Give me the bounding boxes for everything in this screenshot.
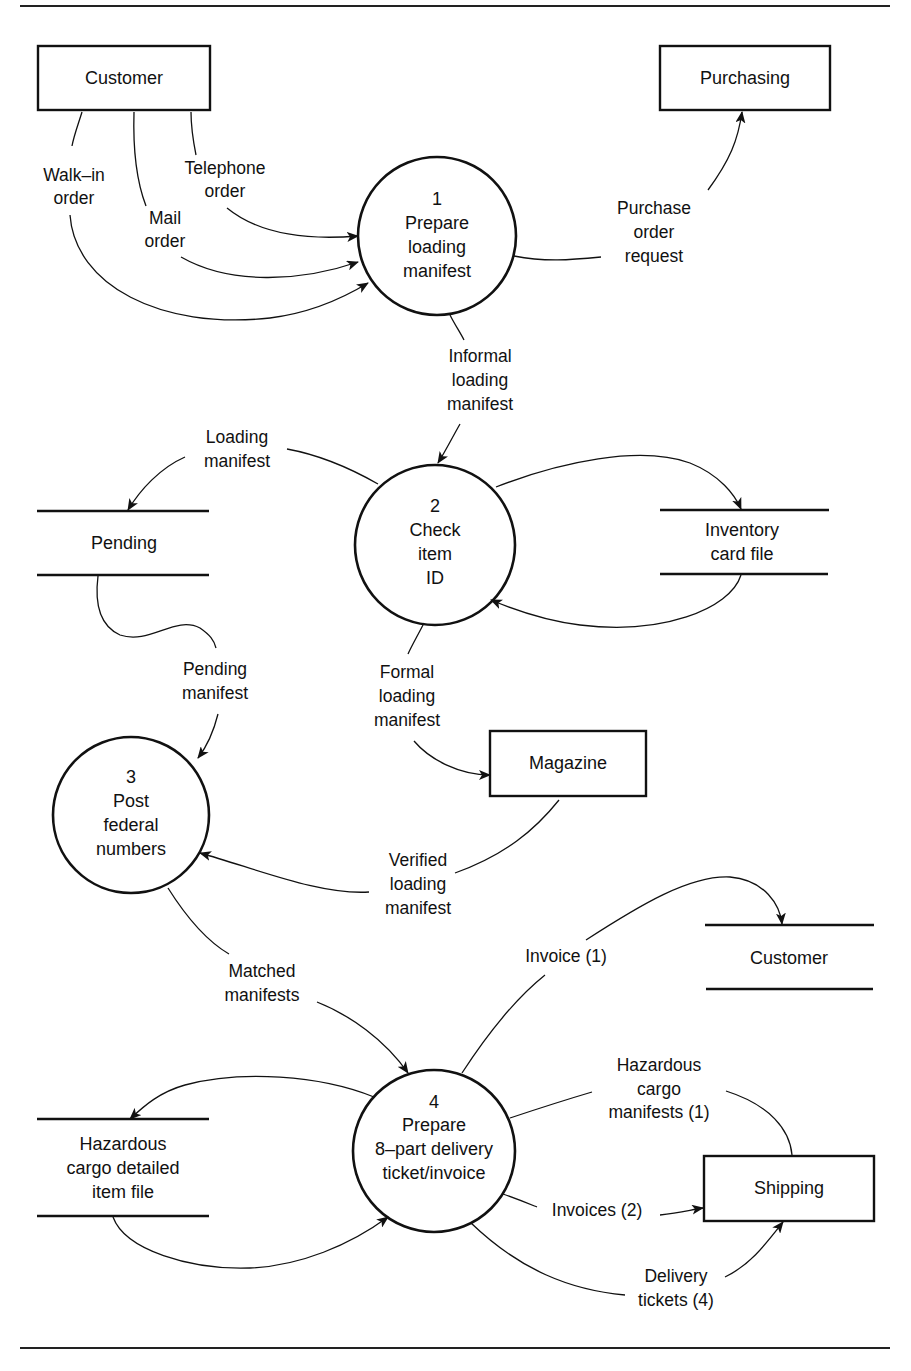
store-inventory-card-file: Inventory card file bbox=[660, 510, 829, 574]
store-customer: Customer bbox=[705, 925, 874, 989]
svg-text:Purchase: Purchase bbox=[617, 198, 691, 218]
svg-text:Informal: Informal bbox=[448, 346, 511, 366]
svg-text:3: 3 bbox=[126, 767, 136, 787]
data-flow-diagram: Customer Purchasing Magazine Shipping 1 … bbox=[0, 0, 911, 1371]
svg-text:manifest: manifest bbox=[447, 394, 513, 414]
svg-text:cargo detailed: cargo detailed bbox=[66, 1158, 179, 1178]
svg-text:item: item bbox=[418, 544, 452, 564]
flow-to-inventory bbox=[496, 456, 741, 509]
svg-text:Invoices (2): Invoices (2) bbox=[552, 1200, 642, 1220]
svg-text:order: order bbox=[205, 181, 246, 201]
svg-text:Pending: Pending bbox=[183, 659, 247, 679]
svg-text:manifest: manifest bbox=[374, 710, 440, 730]
svg-text:1: 1 bbox=[432, 189, 442, 209]
svg-text:Shipping: Shipping bbox=[754, 1178, 824, 1198]
flow-loading-manifest: Loading manifest bbox=[128, 427, 378, 510]
entity-customer: Customer bbox=[38, 46, 210, 110]
svg-text:8–part delivery: 8–part delivery bbox=[375, 1139, 493, 1159]
svg-text:request: request bbox=[625, 246, 684, 266]
svg-text:loading: loading bbox=[390, 874, 446, 894]
flow-mail-order: Mail order bbox=[134, 112, 358, 278]
svg-text:order: order bbox=[634, 222, 675, 242]
svg-text:manifest: manifest bbox=[204, 451, 270, 471]
process-2-check-item-id: 2 Check item ID bbox=[355, 465, 515, 625]
svg-text:Verified: Verified bbox=[389, 850, 447, 870]
svg-text:cargo: cargo bbox=[637, 1079, 681, 1099]
svg-text:item file: item file bbox=[92, 1182, 154, 1202]
svg-text:ticket/invoice: ticket/invoice bbox=[382, 1163, 485, 1183]
svg-text:Formal: Formal bbox=[380, 662, 434, 682]
svg-text:Pending: Pending bbox=[91, 533, 157, 553]
flow-invoice-1: Invoice (1) bbox=[462, 877, 782, 1073]
svg-text:Magazine: Magazine bbox=[529, 753, 607, 773]
svg-text:Walk–in: Walk–in bbox=[43, 165, 105, 185]
svg-text:Purchasing: Purchasing bbox=[700, 68, 790, 88]
svg-text:tickets (4): tickets (4) bbox=[638, 1290, 714, 1310]
process-4-prepare-delivery-ticket: 4 Prepare 8–part delivery ticket/invoice bbox=[353, 1070, 515, 1232]
svg-text:Loading: Loading bbox=[206, 427, 268, 447]
svg-text:Inventory: Inventory bbox=[705, 520, 779, 540]
svg-text:loading: loading bbox=[379, 686, 435, 706]
flow-delivery-tickets: Delivery tickets (4) bbox=[471, 1222, 783, 1310]
svg-text:Invoice (1): Invoice (1) bbox=[525, 946, 607, 966]
flow-hazardous-cargo-manifests: Hazardous cargo manifests (1) bbox=[510, 1055, 792, 1155]
svg-text:numbers: numbers bbox=[96, 839, 166, 859]
svg-text:Prepare: Prepare bbox=[405, 213, 469, 233]
flow-to-hazardous-file bbox=[130, 1076, 374, 1119]
entity-magazine: Magazine bbox=[490, 731, 646, 796]
svg-text:Hazardous: Hazardous bbox=[617, 1055, 702, 1075]
flow-invoices-2: Invoices (2) bbox=[503, 1194, 703, 1220]
flow-from-hazardous-file bbox=[113, 1217, 388, 1268]
svg-text:Delivery: Delivery bbox=[644, 1266, 707, 1286]
svg-text:Hazardous: Hazardous bbox=[79, 1134, 166, 1154]
svg-text:Telephone: Telephone bbox=[185, 158, 266, 178]
flow-walkin-order: Walk–in order bbox=[43, 112, 368, 320]
svg-text:loading: loading bbox=[408, 237, 466, 257]
svg-text:card file: card file bbox=[710, 544, 773, 564]
svg-text:ID: ID bbox=[426, 568, 444, 588]
svg-text:Check: Check bbox=[409, 520, 461, 540]
svg-text:federal: federal bbox=[103, 815, 158, 835]
entity-purchasing: Purchasing bbox=[660, 46, 830, 110]
flow-verified-loading-manifest: Verified loading manifest bbox=[200, 800, 559, 918]
svg-text:Customer: Customer bbox=[85, 68, 163, 88]
flow-formal-loading-manifest: Formal loading manifest bbox=[374, 623, 490, 775]
flow-informal-loading-manifest: Informal loading manifest bbox=[438, 315, 513, 463]
flow-pending-manifest: Pending manifest bbox=[97, 576, 248, 758]
store-pending: Pending bbox=[37, 511, 209, 575]
process-1-prepare-loading-manifest: 1 Prepare loading manifest bbox=[358, 157, 516, 315]
svg-text:manifest: manifest bbox=[385, 898, 451, 918]
svg-text:Post: Post bbox=[113, 791, 149, 811]
svg-text:Matched: Matched bbox=[228, 961, 295, 981]
svg-text:manifests (1): manifests (1) bbox=[608, 1102, 709, 1122]
svg-text:Customer: Customer bbox=[750, 948, 828, 968]
svg-text:manifest: manifest bbox=[403, 261, 471, 281]
process-3-post-federal-numbers: 3 Post federal numbers bbox=[53, 737, 209, 893]
svg-text:order: order bbox=[145, 231, 186, 251]
svg-text:manifest: manifest bbox=[182, 683, 248, 703]
svg-text:order: order bbox=[54, 188, 95, 208]
svg-text:2: 2 bbox=[430, 496, 440, 516]
svg-text:Mail: Mail bbox=[149, 208, 181, 228]
flow-from-inventory bbox=[491, 575, 741, 627]
store-hazardous-cargo-file: Hazardous cargo detailed item file bbox=[37, 1119, 209, 1216]
flow-telephone-order: Telephone order bbox=[185, 112, 358, 237]
svg-text:Prepare: Prepare bbox=[402, 1115, 466, 1135]
svg-text:4: 4 bbox=[429, 1092, 439, 1112]
svg-text:loading: loading bbox=[452, 370, 508, 390]
entity-shipping: Shipping bbox=[704, 1156, 874, 1221]
svg-text:manifests: manifests bbox=[225, 985, 300, 1005]
flow-matched-manifests: Matched manifests bbox=[168, 888, 408, 1073]
flow-purchase-order-request: Purchase order request bbox=[514, 112, 742, 266]
